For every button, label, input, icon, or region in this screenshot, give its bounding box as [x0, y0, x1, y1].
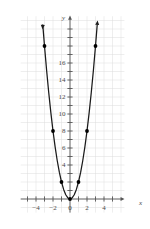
x-tick-label: 4: [102, 204, 106, 212]
graph-figure: −4−202446810121416 x y: [0, 0, 150, 229]
y-tick-label: 12: [59, 93, 67, 101]
data-point: [43, 44, 47, 48]
x-tick-label: 0: [68, 204, 72, 212]
x-axis-label: x: [138, 199, 143, 207]
data-point: [60, 180, 64, 184]
y-tick-label: 16: [59, 59, 67, 67]
y-tick-label: 14: [59, 76, 67, 84]
y-tick-label: 8: [62, 127, 66, 135]
parabola-plot: −4−202446810121416 x y: [0, 0, 150, 229]
x-tick-label: −4: [32, 204, 40, 212]
x-tick-label: 2: [85, 204, 89, 212]
data-point: [94, 44, 98, 48]
x-tick-label: −2: [49, 204, 57, 212]
y-tick-label: 6: [62, 144, 66, 152]
data-point: [85, 129, 89, 133]
y-tick-label: 10: [59, 110, 67, 118]
data-point: [51, 129, 55, 133]
axis-tick-labels: −4−202446810121416: [32, 59, 106, 211]
y-tick-label: 4: [62, 161, 66, 169]
data-point: [68, 197, 72, 201]
y-axis-label: y: [61, 14, 66, 22]
data-point: [77, 180, 81, 184]
